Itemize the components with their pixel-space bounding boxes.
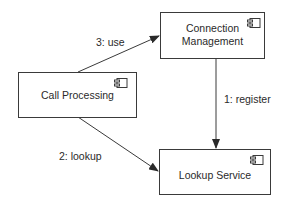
node-lookup-service[interactable]: Lookup Service	[159, 149, 271, 195]
node-connection-management[interactable]: Connection Management	[160, 12, 265, 59]
component-icon	[250, 155, 264, 165]
node-label: Call Processing	[19, 89, 136, 102]
edge-lookup	[78, 117, 158, 171]
node-label-line1: Connection	[161, 22, 264, 35]
edge-label-lookup: 2: lookup	[59, 150, 102, 162]
edge-label-register: 1: register	[224, 93, 271, 105]
edge-label-use: 3: use	[96, 36, 125, 48]
node-call-processing[interactable]: Call Processing	[18, 72, 137, 118]
node-label-line2: Management	[161, 35, 264, 48]
node-label: Connection Management	[161, 22, 264, 48]
node-label: Lookup Service	[160, 169, 270, 182]
component-icon	[114, 78, 128, 88]
